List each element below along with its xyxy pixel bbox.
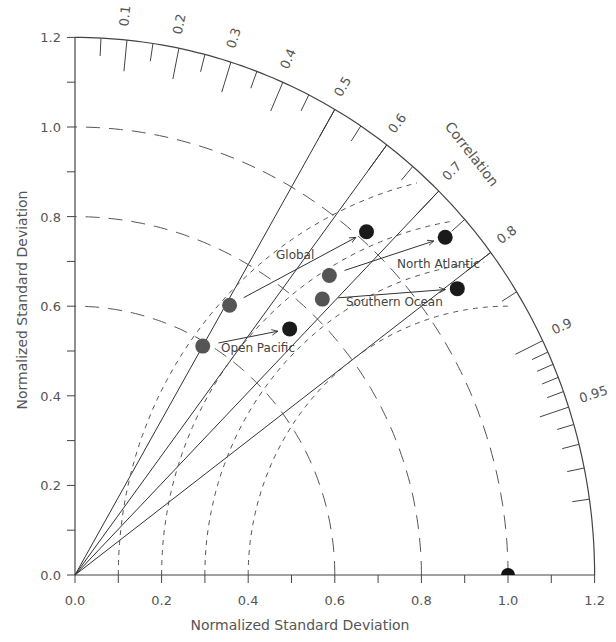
correlation-minor-tick xyxy=(452,219,465,231)
correlation-tick-label: 0.8 xyxy=(494,222,520,246)
correlation-tick-label: 0.95 xyxy=(577,382,609,405)
correlation-tick-label: 0.5 xyxy=(331,74,354,99)
correlation-minor-tick xyxy=(251,71,257,88)
label-southern-ocean: Southern Ocean xyxy=(346,295,443,309)
correlation-tick-label: 0.6 xyxy=(385,110,409,136)
rms-difference-arc xyxy=(162,221,454,575)
plot-labels: 0.00.20.40.60.81.01.20.00.20.40.60.81.01… xyxy=(40,5,609,608)
x-tick-label: 0.6 xyxy=(324,593,345,608)
rms-difference-arc xyxy=(118,183,417,575)
correlation-major-tick xyxy=(271,82,283,111)
y-axis-title: Normalized Standard Deviation xyxy=(14,191,30,410)
correlation-minor-tick xyxy=(557,424,574,429)
series-start-point xyxy=(195,339,210,354)
series-end-point xyxy=(282,321,297,336)
y-tick-label: 0.4 xyxy=(40,389,61,404)
correlation-major-tick xyxy=(222,62,231,92)
correlation-major-tick xyxy=(540,407,569,417)
reference-point xyxy=(501,568,515,575)
y-tick-label: 1.2 xyxy=(40,30,61,45)
series-arrow xyxy=(244,237,356,297)
y-tick-label: 0.8 xyxy=(40,210,61,225)
label-open-pacific: Open Pacific xyxy=(221,341,295,355)
correlation-minor-tick xyxy=(537,364,553,371)
correlation-minor-tick xyxy=(100,38,101,56)
correlation-minor-tick xyxy=(150,43,153,61)
x-axis-title: Normalized Standard Deviation xyxy=(191,617,410,633)
correlation-major-tick xyxy=(124,40,127,71)
x-tick-label: 0.8 xyxy=(411,593,432,608)
correlation-tick-label: 0.3 xyxy=(223,26,244,50)
label-north-atlantic: North Atlantic xyxy=(397,257,480,271)
correlation-minor-tick xyxy=(542,377,558,384)
x-tick-label: 0.0 xyxy=(65,593,86,608)
correlation-minor-tick xyxy=(502,292,517,301)
correlation-ray xyxy=(75,145,387,575)
correlation-major-tick xyxy=(173,48,179,79)
y-tick-label: 0.6 xyxy=(40,299,61,314)
correlation-minor-tick xyxy=(562,444,579,448)
x-tick-label: 1.0 xyxy=(498,593,519,608)
correlation-minor-tick xyxy=(201,54,205,71)
series-start-point xyxy=(315,292,330,307)
correlation-minor-tick xyxy=(567,468,584,472)
correlation-minor-tick xyxy=(401,166,412,180)
correlation-tick-label: 0.9 xyxy=(549,315,574,338)
y-tick-label: 1.0 xyxy=(40,120,61,135)
x-tick-label: 0.2 xyxy=(151,593,172,608)
correlation-tick-label: 0.4 xyxy=(277,46,299,71)
correlation-tick-label: 0.2 xyxy=(170,12,189,35)
rms-difference-arc xyxy=(205,262,484,575)
correlation-tick-label: 0.7 xyxy=(439,158,464,183)
correlation-tick-label: 0.1 xyxy=(116,5,133,27)
std-dev-arc xyxy=(75,217,421,575)
correlation-minor-tick xyxy=(547,392,563,398)
series-end-point xyxy=(438,230,453,245)
y-tick-label: 0.2 xyxy=(40,478,61,493)
label-global: Global xyxy=(276,248,314,262)
series-end-point xyxy=(359,224,374,239)
plot-frame xyxy=(67,37,595,583)
taylor-diagram: 0.00.20.40.60.81.01.20.00.20.40.60.81.01… xyxy=(0,0,616,642)
outer-correlation-arc xyxy=(75,37,595,575)
correlation-minor-tick xyxy=(301,95,309,111)
x-tick-label: 1.2 xyxy=(584,593,605,608)
x-tick-label: 0.4 xyxy=(238,593,259,608)
series-end-point xyxy=(450,281,465,296)
series-start-point xyxy=(222,298,237,313)
correlation-minor-tick xyxy=(351,126,361,141)
data-series xyxy=(195,224,515,575)
correlation-major-tick xyxy=(515,341,542,355)
correlation-minor-tick xyxy=(532,352,548,359)
y-tick-label: 0.0 xyxy=(40,568,61,583)
correlation-minor-tick xyxy=(572,499,589,502)
series-start-point xyxy=(322,268,337,283)
